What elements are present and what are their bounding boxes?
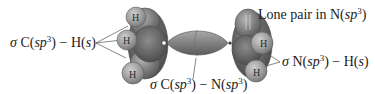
label-n-h-sigma-bond: σ N(sp3) − H(s) xyxy=(282,54,369,70)
label-lone-pair: Lone pair in N(sp3) xyxy=(258,7,366,23)
label-c-n-sigma-bond: σ C(sp3) − N(sp3) xyxy=(150,77,247,93)
sigma-symbol: σ xyxy=(10,35,17,50)
label-text: ) xyxy=(364,54,369,69)
hydrogen-atom-5: H xyxy=(253,67,260,78)
label-text: ) − H( xyxy=(324,54,358,69)
hydrogen-atom-2: H xyxy=(123,35,130,46)
methylamine-orbital-diagram: H H H H H xyxy=(0,0,375,94)
sigma-symbol: σ xyxy=(150,77,157,92)
orbital-text: sp xyxy=(345,7,357,22)
label-text: ) xyxy=(243,77,248,92)
label-text: Lone pair in N( xyxy=(258,7,345,22)
label-text: C( xyxy=(157,77,175,92)
c-n-sigma-lobe xyxy=(167,30,228,56)
orbital-text: sp xyxy=(226,77,238,92)
label-text: ) − H( xyxy=(51,35,85,50)
carbon-nucleus xyxy=(162,41,166,45)
orbital-text: sp xyxy=(34,35,46,50)
nitrogen-nucleus xyxy=(228,41,231,44)
label-text: ) − N( xyxy=(191,77,225,92)
label-text: ) xyxy=(91,35,96,50)
label-text: C( xyxy=(17,35,35,50)
sigma-symbol: σ xyxy=(282,54,289,69)
orbital-text: sp xyxy=(307,54,319,69)
orbital-text: sp xyxy=(174,77,186,92)
hydrogen-atom-3: H xyxy=(129,69,136,80)
label-text: ) xyxy=(362,7,367,22)
label-c-h-sigma-bond: σ C(sp3) − H(s) xyxy=(10,35,96,51)
hydrogen-atom-4: H xyxy=(260,38,267,49)
label-text: N( xyxy=(289,54,307,69)
c-n-leader-line xyxy=(193,58,196,79)
hydrogen-atom-1: H xyxy=(132,12,139,23)
